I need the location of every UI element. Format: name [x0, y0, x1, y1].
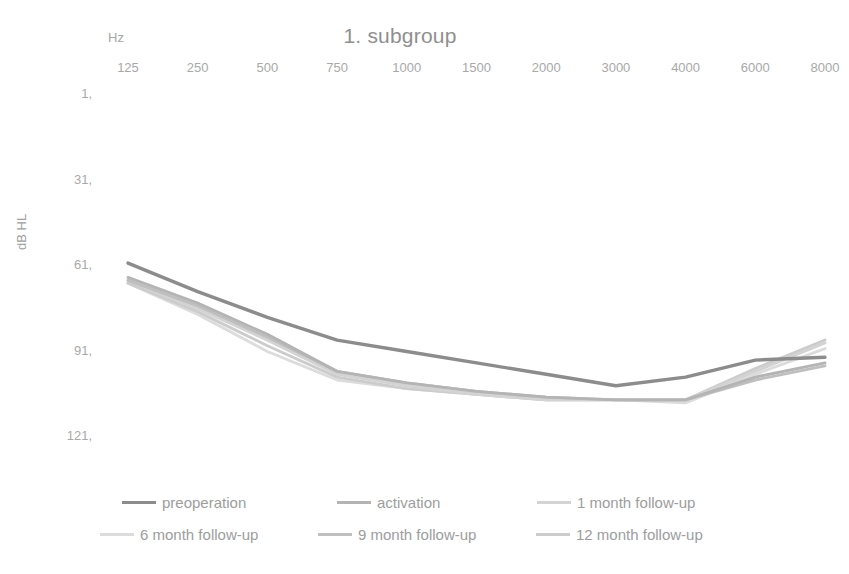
- legend-swatch-icon: [536, 533, 570, 536]
- legend-row: preoperationactivation1 month follow-up: [100, 486, 760, 518]
- legend-item-activation[interactable]: activation: [337, 494, 537, 511]
- legend-item-12-month-follow-up[interactable]: 12 month follow-up: [536, 526, 756, 543]
- series-line-12-month-follow-up: [128, 283, 825, 400]
- legend-label: 1 month follow-up: [577, 494, 695, 511]
- legend-item-9-month-follow-up[interactable]: 9 month follow-up: [318, 526, 536, 543]
- legend-label: 6 month follow-up: [140, 526, 258, 543]
- legend-label: 12 month follow-up: [576, 526, 703, 543]
- legend-label: 9 month follow-up: [358, 526, 476, 543]
- series-line-activation: [128, 277, 825, 400]
- legend-label: preoperation: [162, 494, 246, 511]
- legend-swatch-icon: [122, 501, 156, 504]
- series-line-9-month-follow-up: [128, 280, 825, 400]
- legend-swatch-icon: [337, 501, 371, 504]
- legend-item-6-month-follow-up[interactable]: 6 month follow-up: [100, 526, 318, 543]
- audiogram-chart: Hz 1. subgroup dB HL 1252505007501000150…: [0, 0, 849, 574]
- legend-item-1-month-follow-up[interactable]: 1 month follow-up: [537, 494, 757, 511]
- legend-swatch-icon: [100, 533, 134, 536]
- legend-label: activation: [377, 494, 440, 511]
- legend-swatch-icon: [537, 501, 571, 504]
- legend-row: 6 month follow-up9 month follow-up12 mon…: [100, 518, 760, 550]
- legend-swatch-icon: [318, 533, 352, 536]
- series-line-1-month-follow-up: [128, 280, 825, 400]
- legend-item-preoperation[interactable]: preoperation: [122, 494, 337, 511]
- chart-legend: preoperationactivation1 month follow-up6…: [100, 486, 760, 550]
